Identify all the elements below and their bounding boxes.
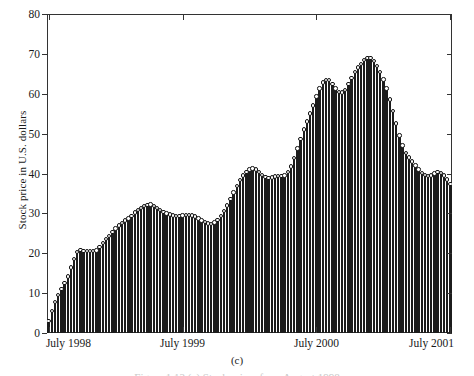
- bar: [427, 176, 429, 333]
- y-axis-tick-right: [447, 253, 452, 254]
- bar: [251, 168, 253, 333]
- bar: [191, 215, 193, 333]
- bar: [216, 220, 218, 333]
- bar: [137, 210, 139, 333]
- bar: [338, 92, 340, 333]
- data-point-marker: [295, 146, 299, 150]
- bar: [210, 224, 212, 333]
- bar: [360, 64, 362, 333]
- x-axis-tick-label: July 2000: [294, 337, 339, 349]
- y-axis-tick: [42, 14, 47, 15]
- data-point-marker: [384, 86, 388, 90]
- data-point-marker: [219, 214, 223, 218]
- data-point-marker: [448, 182, 452, 186]
- bar: [79, 250, 81, 333]
- y-axis-tick: [42, 54, 47, 55]
- bar: [318, 89, 320, 333]
- bar: [303, 130, 305, 333]
- bar: [242, 176, 244, 334]
- data-point-marker: [317, 86, 321, 90]
- data-point-marker: [302, 127, 306, 131]
- bar: [379, 72, 381, 333]
- data-point-marker: [346, 82, 350, 86]
- bar: [220, 216, 222, 333]
- data-point-marker: [59, 287, 63, 291]
- x-axis-tick-top: [316, 14, 317, 20]
- bar: [309, 114, 311, 333]
- bar: [446, 179, 448, 333]
- data-point-marker: [308, 111, 312, 115]
- bar: [350, 78, 352, 333]
- bar: [306, 122, 308, 333]
- y-axis-tick-label: 40: [29, 168, 41, 180]
- bar: [236, 186, 238, 333]
- bar: [73, 259, 75, 333]
- bar: [146, 205, 148, 333]
- data-point-marker: [388, 97, 392, 101]
- bar: [414, 166, 416, 333]
- data-point-marker: [69, 265, 73, 269]
- x-axis-tick: [450, 327, 451, 333]
- bar: [277, 176, 279, 333]
- x-axis-tick-label: July 1999: [160, 337, 205, 349]
- bar: [60, 289, 62, 333]
- bar: [443, 176, 445, 334]
- data-point-marker: [66, 274, 70, 278]
- x-axis-tick-top: [183, 14, 184, 20]
- bar: [363, 60, 365, 333]
- data-point-marker: [101, 241, 105, 245]
- bar: [239, 180, 241, 333]
- bar: [207, 223, 209, 333]
- y-axis-tick-right: [447, 213, 452, 214]
- bar: [118, 225, 120, 333]
- bar: [347, 84, 349, 333]
- data-point-marker: [314, 94, 318, 98]
- bar: [322, 83, 324, 333]
- y-axis-tick-right: [447, 54, 452, 55]
- bar: [82, 251, 84, 333]
- bar: [255, 170, 257, 333]
- bar: [54, 302, 56, 333]
- bar: [436, 172, 438, 333]
- y-axis-tick-right: [447, 293, 452, 294]
- bar: [226, 205, 228, 333]
- y-axis-tick-right: [447, 94, 452, 95]
- data-point-marker: [397, 133, 401, 137]
- bar: [382, 79, 384, 333]
- bar: [248, 170, 250, 333]
- bar: [98, 247, 100, 333]
- bar: [95, 250, 97, 333]
- bar: [287, 172, 289, 333]
- x-axis-tick-label: July 2001: [409, 337, 454, 349]
- x-axis-tick: [183, 327, 184, 333]
- bar: [67, 276, 69, 333]
- y-axis-tick-label: 60: [29, 88, 41, 100]
- bar: [169, 215, 171, 333]
- bar: [405, 153, 407, 333]
- bar: [341, 93, 343, 333]
- bar: [127, 219, 129, 333]
- bar: [130, 216, 132, 333]
- bar: [245, 172, 247, 333]
- bar: [430, 176, 432, 334]
- data-point-marker: [215, 218, 219, 222]
- y-axis-tick-label: 20: [29, 247, 41, 259]
- data-point-marker: [404, 151, 408, 155]
- bar: [433, 174, 435, 334]
- bar: [398, 136, 400, 333]
- y-axis-tick: [42, 253, 47, 254]
- data-point-marker: [381, 77, 385, 81]
- y-axis-tick: [42, 134, 47, 135]
- bar: [376, 66, 378, 333]
- bar-series: [47, 14, 452, 333]
- bar: [401, 146, 403, 333]
- bar: [156, 208, 158, 333]
- bar: [417, 170, 419, 333]
- y-axis-tick-label: 80: [29, 8, 41, 20]
- x-axis-tick-top: [49, 14, 50, 20]
- panel-label: (c): [0, 354, 474, 366]
- bar: [232, 193, 234, 333]
- bar: [315, 97, 317, 333]
- data-point-marker: [394, 121, 398, 125]
- bar: [63, 283, 65, 333]
